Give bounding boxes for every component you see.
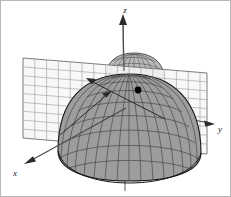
y-axis-label: y bbox=[217, 124, 222, 134]
tangency-point bbox=[135, 87, 142, 94]
surface-plot-svg: z y x bbox=[1, 1, 231, 197]
z-axis-label: z bbox=[122, 5, 127, 15]
figure-container: z y x bbox=[0, 0, 231, 197]
x-axis-label: x bbox=[12, 168, 17, 178]
